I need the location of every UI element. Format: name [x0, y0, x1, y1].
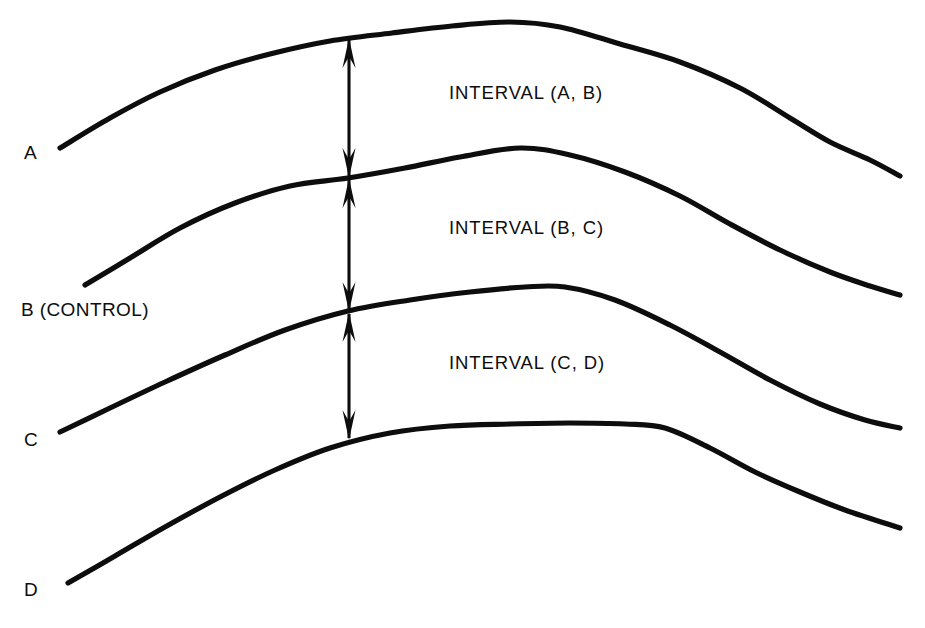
curve-label-c: C [24, 430, 38, 449]
interval-label-bc: INTERVAL (B, C) [449, 219, 604, 238]
curve-label-a: A [24, 143, 37, 162]
interval-label-cd: INTERVAL (C, D) [449, 354, 605, 373]
interval-label-ab: INTERVAL (A, B) [449, 84, 603, 103]
curves-group [60, 22, 900, 583]
interval-arrows-group [343, 38, 356, 440]
curve-label-b-control: B (CONTROL) [21, 300, 149, 319]
interval-arrow-bc [343, 178, 356, 312]
interval-arrow-cd [343, 312, 356, 440]
curve-d [68, 423, 900, 583]
interval-arrow-ab [343, 38, 356, 178]
curve-label-d: D [24, 580, 38, 599]
interval-diagram: A B (CONTROL) C D INTERVAL (A, B) INTERV… [0, 0, 925, 628]
